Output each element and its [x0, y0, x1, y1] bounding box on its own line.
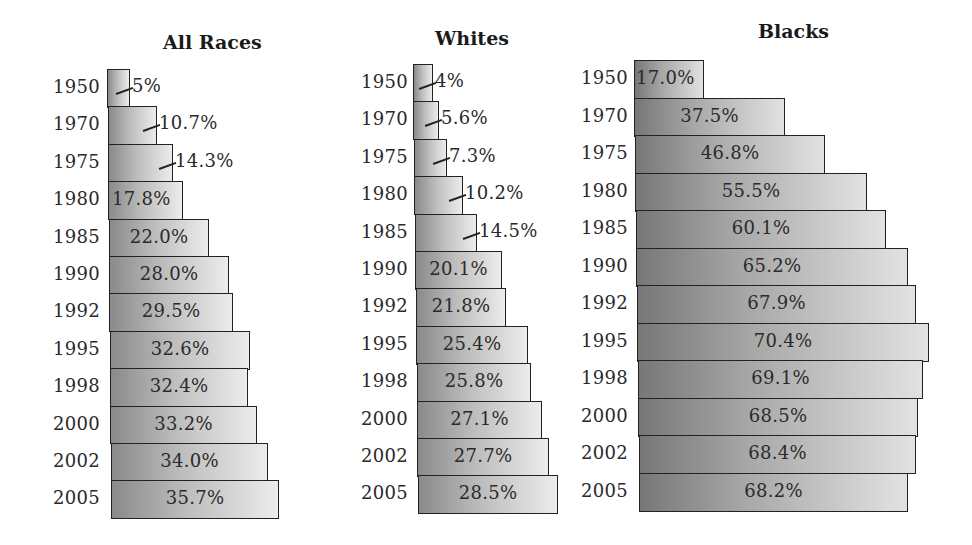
value-label: 65.2% — [636, 255, 908, 276]
year-label: 2002 — [53, 450, 100, 471]
year-label: 2002 — [581, 442, 628, 463]
value-label: 20.1% — [415, 258, 502, 279]
value-label: 27.1% — [417, 408, 542, 429]
year-label: 1970 — [53, 113, 100, 134]
value-label: 34.0% — [111, 450, 268, 471]
value-label: 28.0% — [109, 263, 229, 284]
chart-title-whites: Whites — [435, 27, 509, 49]
value-label: 55.5% — [635, 180, 867, 201]
year-label: 1998 — [53, 375, 100, 396]
year-label: 1992 — [53, 300, 100, 321]
value-label: 28.5% — [418, 482, 558, 503]
bar — [108, 106, 157, 145]
chart-title-all-races: All Races — [163, 31, 262, 53]
year-label: 1950 — [361, 71, 408, 92]
value-label: 5.6% — [441, 107, 488, 128]
value-label: 68.5% — [638, 405, 918, 426]
value-label: 27.7% — [417, 445, 549, 466]
value-label: 4% — [435, 70, 464, 91]
year-label: 2005 — [581, 480, 628, 501]
year-label: 1975 — [581, 142, 628, 163]
year-label: 1970 — [581, 105, 628, 126]
year-label: 1985 — [581, 217, 628, 238]
year-label: 1985 — [53, 226, 100, 247]
year-label: 2000 — [53, 413, 100, 434]
year-label: 1998 — [361, 370, 408, 391]
year-label: 1990 — [581, 255, 628, 276]
year-label: 1995 — [53, 338, 100, 359]
value-label: 32.4% — [110, 375, 248, 396]
year-label: 1998 — [581, 367, 628, 388]
value-label: 68.2% — [639, 480, 908, 501]
year-label: 1990 — [361, 258, 408, 279]
year-label: 1992 — [361, 295, 408, 316]
value-label: 60.1% — [636, 217, 886, 238]
value-label: 25.4% — [416, 333, 528, 354]
value-label: 10.7% — [159, 112, 218, 133]
bar — [414, 176, 463, 215]
year-label: 2005 — [53, 487, 100, 508]
year-label: 1950 — [581, 67, 628, 88]
value-label: 21.8% — [416, 295, 506, 316]
year-label: 1975 — [53, 151, 100, 172]
value-label: 37.5% — [634, 105, 785, 126]
year-label: 1992 — [581, 292, 628, 313]
value-label: 33.2% — [110, 413, 257, 434]
value-label: 10.2% — [465, 182, 524, 203]
year-label: 2000 — [361, 408, 408, 429]
value-label: 70.4% — [637, 330, 929, 351]
year-label: 1985 — [361, 221, 408, 242]
value-label: 35.7% — [111, 487, 279, 508]
year-label: 1995 — [361, 333, 408, 354]
value-label: 32.6% — [110, 338, 250, 359]
bar — [414, 139, 447, 178]
bar — [108, 144, 173, 183]
value-label: 69.1% — [638, 367, 923, 388]
value-label: 14.5% — [479, 220, 538, 241]
year-label: 1990 — [53, 263, 100, 284]
year-label: 2002 — [361, 445, 408, 466]
value-label: 25.8% — [417, 370, 531, 391]
year-label: 1970 — [361, 108, 408, 129]
value-label: 22.0% — [109, 226, 209, 247]
year-label: 1980 — [581, 180, 628, 201]
value-label: 14.3% — [175, 150, 234, 171]
year-label: 1980 — [361, 183, 408, 204]
chart-title-blacks: Blacks — [758, 20, 829, 42]
value-label: 46.8% — [635, 142, 825, 163]
value-label: 67.9% — [637, 292, 916, 313]
value-label: 29.5% — [109, 300, 233, 321]
year-label: 1975 — [361, 146, 408, 167]
year-label: 1995 — [581, 330, 628, 351]
year-label: 1950 — [53, 76, 100, 97]
value-label: 68.4% — [639, 442, 916, 463]
value-label: 7.3% — [449, 145, 496, 166]
value-label: 5% — [132, 75, 161, 96]
value-label: 17.8% — [112, 188, 187, 209]
year-label: 1980 — [53, 188, 100, 209]
value-label: 17.0% — [636, 67, 706, 88]
year-label: 2000 — [581, 405, 628, 426]
bar — [415, 214, 477, 253]
year-label: 2005 — [361, 482, 408, 503]
